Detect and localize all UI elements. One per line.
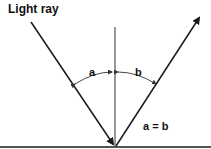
diagram-title: Light ray [8,2,59,16]
angle-label-b: b [135,66,142,78]
angle-label-a: a [89,66,95,78]
reflection-diagram [0,0,211,149]
equation-label: a = b [143,120,168,132]
incident-ray [31,22,113,144]
